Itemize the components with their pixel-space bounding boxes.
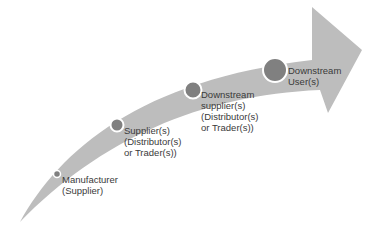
label-downstream-user: Downstream User(s) (288, 65, 341, 87)
label-line: or Trader(s)) (201, 122, 259, 133)
label-line: User(s) (288, 76, 341, 87)
node-downstream-user (263, 58, 287, 82)
label-line: Downstream (288, 65, 341, 76)
label-line: (Distributor(s) (201, 111, 259, 122)
label-line: or Trader(s)) (124, 147, 182, 158)
label-line: Supplier(s) (124, 125, 182, 136)
label-supplier: Supplier(s) (Distributor(s) or Trader(s)… (124, 125, 182, 158)
supply-chain-diagram: Manufacturer (Supplier) Supplier(s) (Dis… (0, 0, 387, 233)
label-line: (Supplier) (62, 185, 118, 196)
node-manufacturer (54, 171, 61, 178)
label-downstream-supplier: Downstream supplier(s) (Distributor(s) o… (201, 89, 259, 133)
node-supplier (111, 119, 124, 132)
label-manufacturer: Manufacturer (Supplier) (62, 174, 118, 196)
node-downstream-supplier (185, 82, 202, 99)
label-line: Manufacturer (62, 174, 118, 185)
label-line: Downstream (201, 89, 259, 100)
label-line: supplier(s) (201, 100, 259, 111)
flow-arrow-graphic (0, 0, 387, 233)
label-line: (Distributor(s) (124, 136, 182, 147)
